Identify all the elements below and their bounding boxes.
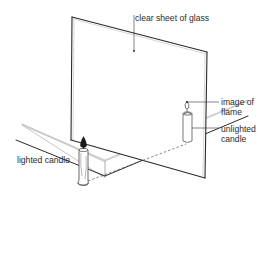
glass-sheet — [71, 17, 207, 178]
label-unlighted-candle-line1: unlighted — [221, 124, 256, 134]
mirror-candle-diagram: clear sheet of glass image of flame unli… — [0, 0, 274, 264]
label-lighted-candle: lighted candle — [17, 155, 70, 165]
label-clear-glass: clear sheet of glass — [135, 13, 209, 23]
lighted-candle — [77, 148, 89, 185]
unlighted-candle — [183, 108, 192, 143]
label-unlighted-candle-line2: candle — [221, 134, 246, 144]
label-image-of-flame-line2: flame — [221, 107, 242, 117]
label-image-of-flame-line1: image of — [221, 97, 254, 107]
